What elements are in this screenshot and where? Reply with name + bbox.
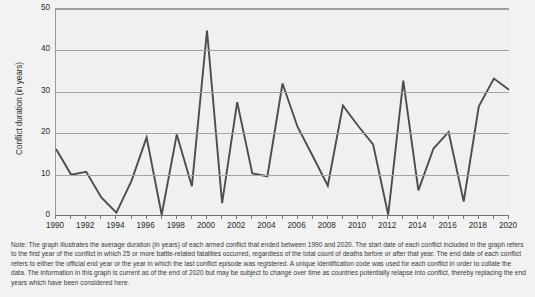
plot-area — [55, 8, 509, 216]
x-tick-mark — [478, 215, 479, 219]
chart-page: Conflict duration (in years) 01020304050… — [0, 0, 535, 297]
x-tick-mark — [131, 215, 132, 219]
x-tick-mark — [357, 215, 358, 219]
x-tick-mark — [387, 215, 388, 219]
x-tick-label: 2000 — [197, 221, 215, 231]
x-tick-label: 2002 — [227, 221, 245, 231]
series-line — [56, 9, 509, 216]
x-tick-mark — [191, 215, 192, 219]
x-tick-mark — [433, 215, 434, 219]
x-tick-mark — [100, 215, 101, 219]
x-tick-mark — [115, 215, 116, 219]
gridline — [56, 50, 509, 51]
x-tick-mark — [312, 215, 313, 219]
x-tick-mark — [206, 215, 207, 219]
x-tick-label: 1998 — [167, 221, 185, 231]
x-tick-label: 1996 — [136, 221, 154, 231]
x-tick-mark — [297, 215, 298, 219]
y-axis-tick-labels: 01020304050 — [24, 0, 50, 220]
x-tick-label: 2012 — [378, 221, 396, 231]
x-tick-label: 2010 — [348, 221, 366, 231]
x-tick-mark — [402, 215, 403, 219]
x-tick-mark — [463, 215, 464, 219]
y-tick-label: 20 — [24, 128, 50, 136]
x-tick-mark — [55, 215, 56, 219]
x-tick-mark — [448, 215, 449, 219]
x-tick-mark — [493, 215, 494, 219]
chart-note: Note: The graph illustrates the average … — [11, 240, 527, 287]
y-tick-label: 30 — [24, 87, 50, 95]
conflict-duration-line-chart: Conflict duration (in years) 01020304050… — [0, 0, 535, 236]
x-tick-mark — [221, 215, 222, 219]
x-tick-label: 2006 — [287, 221, 305, 231]
x-tick-mark — [161, 215, 162, 219]
gridline — [56, 92, 509, 93]
x-tick-mark — [70, 215, 71, 219]
gridline — [56, 133, 509, 134]
x-tick-label: 2008 — [318, 221, 336, 231]
x-tick-mark — [146, 215, 147, 219]
x-tick-label: 1990 — [46, 221, 64, 231]
x-tick-mark — [266, 215, 267, 219]
x-tick-mark — [251, 215, 252, 219]
x-tick-mark — [342, 215, 343, 219]
y-tick-label: 40 — [24, 45, 50, 53]
x-tick-mark — [85, 215, 86, 219]
data-series-polyline — [56, 31, 509, 215]
x-tick-label: 1994 — [106, 221, 124, 231]
x-tick-label: 2016 — [438, 221, 456, 231]
x-tick-label: 2020 — [499, 221, 517, 231]
x-tick-mark — [508, 215, 509, 219]
x-tick-mark — [176, 215, 177, 219]
x-axis-tick-labels: 1990199219941996199820002002200420062008… — [0, 221, 535, 235]
x-tick-mark — [417, 215, 418, 219]
x-tick-mark — [236, 215, 237, 219]
x-tick-label: 2004 — [257, 221, 275, 231]
x-tick-mark — [372, 215, 373, 219]
x-tick-mark — [282, 215, 283, 219]
x-tick-label: 2014 — [408, 221, 426, 231]
gridline — [56, 175, 509, 176]
y-tick-label: 10 — [24, 170, 50, 178]
x-tick-label: 2018 — [469, 221, 487, 231]
gridline — [56, 9, 509, 10]
y-axis-title-label: Conflict duration (in years) — [15, 62, 24, 155]
x-tick-mark — [327, 215, 328, 219]
y-tick-label: 50 — [24, 4, 50, 12]
x-tick-label: 1992 — [76, 221, 94, 231]
